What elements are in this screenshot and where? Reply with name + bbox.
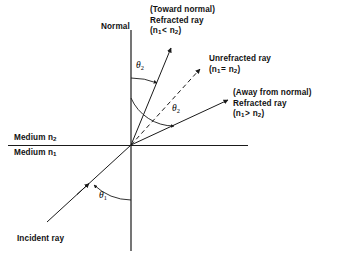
unrefracted-ray-line <box>131 69 200 145</box>
cond-open: (n <box>209 65 217 74</box>
toward-normal-line1: (Toward normal) <box>150 5 215 16</box>
toward-normal-condition: (n1< n2) <box>150 26 215 38</box>
cond-close: ) <box>178 26 181 35</box>
incident-ray-label: Incident ray <box>17 234 64 245</box>
cond-close: ) <box>237 65 240 74</box>
medium-n2-label: Medium n2 <box>14 133 57 145</box>
normal-label: Normal <box>101 22 130 33</box>
toward-normal-callout: (Toward normal) Refracted ray (n1< n2) <box>150 5 215 38</box>
theta-2-upper-label: θ2 <box>136 60 144 71</box>
away-from-normal-condition: (n1> n2) <box>233 109 312 121</box>
unrefracted-line1: Unrefracted ray <box>209 54 271 65</box>
theta-1-label: θ1 <box>99 190 107 201</box>
medium-n1-label: Medium n1 <box>14 148 57 160</box>
medium-n2-subscript: 2 <box>53 135 57 142</box>
unrefracted-callout: Unrefracted ray (n1= n2) <box>209 54 271 76</box>
cond-n2: n <box>250 109 257 118</box>
theta-subscript: 2 <box>177 107 180 114</box>
cond-open: (n <box>233 109 241 118</box>
medium-n1-text: Medium n <box>14 148 53 157</box>
incident-ray-label-text: Incident ray <box>17 234 64 243</box>
cond-open: (n <box>150 26 158 35</box>
theta-2-upper-arc <box>131 78 157 83</box>
theta-subscript: 1 <box>104 194 107 201</box>
medium-n1-subscript: 1 <box>53 150 57 157</box>
away-from-normal-callout: (Away from normal) Refracted ray (n1> n2… <box>233 88 312 121</box>
incident-ray-arrow <box>77 184 89 195</box>
cond-n2: n <box>167 26 174 35</box>
medium-n2-text: Medium n <box>14 133 53 142</box>
toward-normal-line2: Refracted ray <box>150 16 215 27</box>
cond-n2: n <box>226 65 233 74</box>
away-from-normal-line2: Refracted ray <box>233 99 312 110</box>
theta-subscript: 2 <box>141 64 144 71</box>
unrefracted-condition: (n1= n2) <box>209 65 271 77</box>
normal-label-text: Normal <box>101 22 130 31</box>
away-from-normal-line1: (Away from normal) <box>233 88 312 99</box>
cond-close: ) <box>261 109 264 118</box>
theta-2-lower-label: θ2 <box>172 103 180 114</box>
